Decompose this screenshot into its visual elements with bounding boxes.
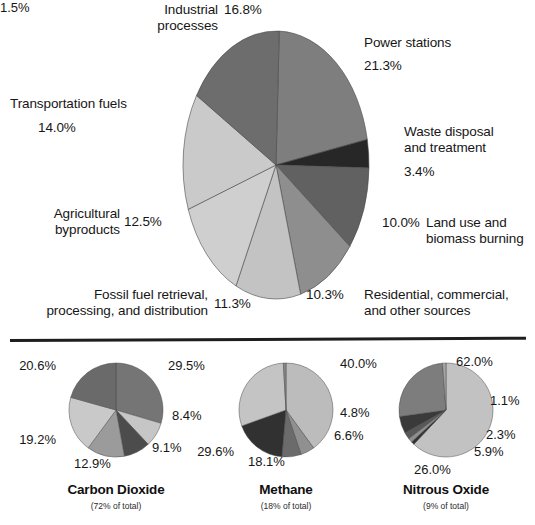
subtitle-nitrous-oxide: (9% of total) — [366, 501, 526, 511]
subtitle-carbon-dioxide: (72% of total) — [36, 501, 196, 511]
value-co2-29-5: 29.5% — [168, 358, 205, 373]
value-land-use: 10.0% — [382, 215, 420, 231]
value-ch4-18-1: 18.1% — [248, 454, 285, 469]
value-ch4-29-6: 29.6% — [178, 444, 234, 459]
main-pie-chart — [180, 28, 372, 308]
value-waste-disposal: 3.4% — [404, 164, 434, 180]
value-residential: 10.3% — [306, 287, 344, 303]
label-fossil-fuel: Fossil fuel retrieval, processing, and d… — [0, 287, 208, 318]
value-n2o-1-1: 1.1% — [490, 393, 520, 408]
greenhouse-gas-sources-figure: Industrial processes 16.8% Power station… — [0, 0, 535, 525]
value-power-stations: 21.3% — [364, 58, 402, 74]
value-co2-12-9: 12.9% — [74, 456, 111, 471]
label-waste-disposal: Waste disposal and treatment — [404, 124, 494, 155]
value-fossil-fuel: 11.3% — [214, 296, 251, 312]
section-divider — [10, 337, 526, 342]
label-industrial-processes: Industrial processes — [58, 2, 218, 33]
label-power-stations: Power stations — [364, 35, 451, 51]
value-industrial-processes: 16.8% — [224, 2, 262, 18]
value-co2-20-6: 20.6% — [6, 358, 56, 373]
title-carbon-dioxide: Carbon Dioxide — [36, 482, 196, 497]
methane-pie-chart — [238, 362, 334, 458]
value-agricultural-byproducts: 12.5% — [124, 214, 162, 230]
value-n2o-5-9: 5.9% — [474, 444, 504, 459]
main-pie-svg — [180, 28, 372, 308]
methane-pie-svg — [238, 362, 334, 458]
value-n2o-62-0: 62.0% — [456, 354, 493, 369]
subtitle-methane: (18% of total) — [206, 501, 366, 511]
label-agricultural-byproducts: Agricultural byproducts — [10, 206, 120, 237]
label-land-use: Land use and biomass burning — [426, 215, 524, 246]
value-co2-8-4: 8.4% — [172, 408, 202, 423]
value-ch4-6-6: 6.6% — [334, 428, 364, 443]
title-methane: Methane — [206, 482, 366, 497]
value-n2o-26-0: 26.0% — [414, 462, 451, 477]
n2o-slice-5 — [399, 363, 446, 416]
value-co2-19-2: 19.2% — [0, 432, 56, 447]
value-transportation-fuels: 14.0% — [38, 120, 76, 136]
value-ch4-4-8: 4.8% — [340, 405, 370, 420]
value-ch4-40-0: 40.0% — [340, 356, 377, 371]
value-n2o-1-5: 1.5% — [0, 0, 30, 15]
value-n2o-2-3: 2.3% — [486, 427, 516, 442]
title-nitrous-oxide: Nitrous Oxide — [366, 482, 526, 497]
label-transportation-fuels: Transportation fuels — [10, 96, 127, 112]
carbon-dioxide-pie-svg — [68, 362, 164, 458]
label-residential: Residential, commercial, and other sourc… — [364, 287, 509, 318]
carbon-dioxide-pie-chart — [68, 362, 164, 458]
